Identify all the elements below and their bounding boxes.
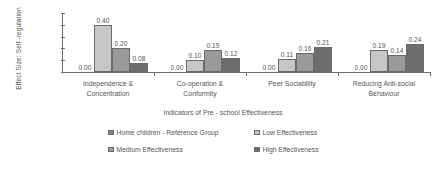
bar-value-label: 0.00 — [79, 64, 92, 71]
legend: Home children - Reference GroupLow Effec… — [108, 129, 358, 163]
bar-value-label: 0.40 — [97, 17, 110, 24]
legend-item[interactable]: Low Effectiveness — [254, 129, 317, 136]
legend-swatch-icon — [254, 147, 260, 153]
legend-item[interactable]: High Effectiveness — [254, 146, 319, 153]
bar-slot: 0.08 — [130, 13, 148, 72]
bar[interactable] — [94, 25, 112, 72]
bar-slot: 0.24 — [406, 13, 424, 72]
bar-slot: 0.21 — [314, 13, 332, 72]
y-axis-tick — [61, 72, 65, 73]
bar-group: 0.000.190.140.24 — [338, 13, 430, 72]
category-label-line: Behaviour — [328, 89, 440, 99]
bar-group: 0.000.100.190.12 — [154, 13, 246, 72]
bar[interactable] — [112, 48, 130, 72]
bar-slot: 0.00 — [260, 13, 278, 72]
legend-label: High Effectiveness — [263, 146, 319, 153]
bar-slot: 0.14 — [388, 13, 406, 72]
plot-area: 0.000.100.200.300.400.50 0.000.400.200.0… — [62, 13, 430, 72]
bar-group: 0.000.110.160.21 — [246, 13, 338, 72]
bar-value-label: 0.11 — [281, 51, 293, 58]
bar-value-label: 0.16 — [299, 45, 312, 52]
bar-value-label: 0.19 — [373, 42, 386, 49]
bar-value-label: 0.14 — [391, 47, 404, 54]
bar-slot: 0.19 — [204, 13, 222, 72]
legend-swatch-icon — [254, 130, 260, 136]
bar-value-label: 0.00 — [263, 64, 276, 71]
bar-slot: 0.00 — [352, 13, 370, 72]
bar-value-label: 0.00 — [171, 64, 184, 71]
x-axis-tick — [338, 72, 339, 76]
bar-slot: 0.10 — [186, 13, 204, 72]
bar[interactable] — [296, 53, 314, 72]
x-axis-title: Indicators of Pre - school Effectiveness — [0, 109, 446, 116]
bar-value-label: 0.24 — [409, 36, 422, 43]
legend-item[interactable]: Medium Effectiveness — [108, 146, 183, 153]
bar-slot: 0.19 — [370, 13, 388, 72]
bar[interactable] — [222, 58, 240, 72]
bar-group: 0.000.400.200.08 — [62, 13, 154, 72]
bar[interactable] — [370, 50, 388, 72]
category-label-line: Reducing Anti-social — [328, 79, 440, 89]
category-label-line: Conformity — [144, 89, 256, 99]
x-axis-tick — [246, 72, 247, 76]
bar-value-label: 0.20 — [115, 40, 128, 47]
bar-slot: 0.40 — [94, 13, 112, 72]
bar[interactable] — [204, 50, 222, 72]
legend-label: Home children - Reference Group — [117, 129, 219, 136]
x-axis-category-label: Reducing Anti-socialBehaviour — [328, 79, 440, 99]
bar-slot: 0.00 — [76, 13, 94, 72]
bar[interactable] — [130, 63, 148, 72]
x-axis-tick — [154, 72, 155, 76]
x-axis-tick — [430, 72, 431, 76]
bar-slot: 0.00 — [168, 13, 186, 72]
bar-value-label: 0.08 — [133, 55, 146, 62]
legend-label: Low Effectiveness — [263, 129, 318, 136]
legend-swatch-icon — [108, 130, 114, 136]
bar-slot: 0.12 — [222, 13, 240, 72]
bar[interactable] — [186, 60, 204, 72]
bar-value-label: 0.00 — [355, 64, 368, 71]
bar-chart: Effect Size: Self -regulation 0.000.100.… — [0, 0, 446, 175]
bar-value-label: 0.21 — [317, 39, 330, 46]
bar-value-label: 0.19 — [207, 42, 220, 49]
bar[interactable] — [406, 44, 424, 72]
legend-item[interactable]: Home children - Reference Group — [108, 129, 219, 136]
bar-slot: 0.11 — [278, 13, 296, 72]
bar[interactable] — [314, 47, 332, 72]
bar[interactable] — [388, 55, 406, 72]
legend-row: Medium EffectivenessHigh Effectiveness — [108, 146, 358, 163]
legend-swatch-icon — [108, 147, 114, 153]
bar-value-label: 0.12 — [225, 50, 238, 57]
bar-value-label: 0.10 — [189, 52, 202, 59]
bar-slot: 0.16 — [296, 13, 314, 72]
legend-label: Medium Effectiveness — [117, 146, 183, 153]
y-axis-title: Effect Size: Self -regulation — [15, 0, 22, 104]
bar[interactable] — [278, 59, 296, 72]
bar-slot: 0.20 — [112, 13, 130, 72]
legend-row: Home children - Reference GroupLow Effec… — [108, 129, 358, 146]
